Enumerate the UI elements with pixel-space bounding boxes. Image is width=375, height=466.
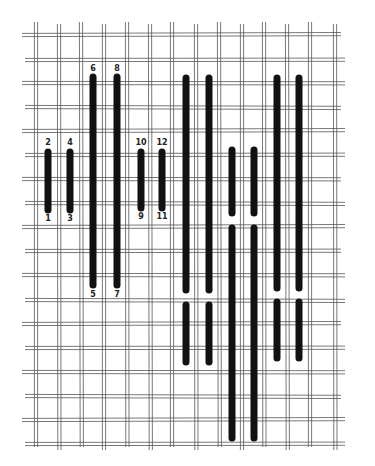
grid-thread-vertical (83, 22, 84, 447)
stitch-number-label: 5 (90, 291, 96, 299)
grid-thread-horizontal (22, 36, 341, 37)
stitch-number-label: 3 (67, 215, 73, 223)
stitch-number-label: 8 (114, 65, 120, 73)
stitch-number-label: 2 (45, 139, 51, 147)
grid-thread-horizontal (22, 325, 341, 326)
stitch-number-label: 7 (114, 291, 120, 299)
grid-thread-vertical (289, 24, 290, 450)
grid-thread-vertical (148, 24, 149, 450)
grid-thread-vertical (285, 24, 286, 450)
grid-thread-vertical (217, 22, 218, 447)
stitch-number-label: 6 (90, 65, 96, 73)
grid-thread-vertical (79, 22, 80, 447)
grid-thread-horizontal (22, 33, 341, 34)
stitch-diagram (0, 0, 375, 466)
stitch-number-label: 4 (67, 139, 73, 147)
grid-thread-horizontal (22, 418, 345, 419)
grid-thread-horizontal (22, 322, 341, 323)
stitch-number-label: 12 (156, 139, 167, 147)
stitch-number-label: 9 (138, 213, 144, 221)
stitch-number-label: 11 (156, 213, 167, 221)
grid-thread-vertical (221, 22, 222, 447)
stitch-number-label: 10 (135, 139, 146, 147)
stitch-number-label: 1 (45, 215, 51, 223)
grid-thread-horizontal (22, 421, 345, 422)
grid-thread-horizontal (25, 394, 341, 395)
grid-thread-horizontal (25, 398, 341, 399)
grid-thread-vertical (152, 24, 153, 450)
